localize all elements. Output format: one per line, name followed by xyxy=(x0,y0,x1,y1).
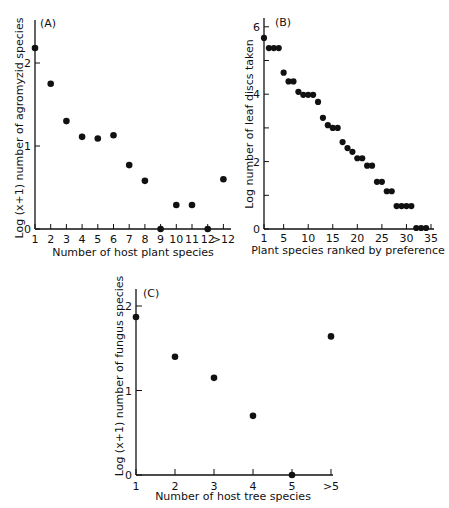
data-point xyxy=(261,35,267,41)
y-tick-label: 1 xyxy=(125,385,132,398)
data-point xyxy=(173,202,180,209)
data-point xyxy=(126,162,133,169)
data-point xyxy=(79,134,86,141)
panel-label-a: (A) xyxy=(40,17,56,30)
data-point xyxy=(290,78,296,84)
data-point xyxy=(289,472,296,479)
x-tick-label: 1 xyxy=(32,233,39,246)
data-point xyxy=(315,99,321,105)
x-tick-label: 2 xyxy=(47,233,54,246)
panel-label-b: (B) xyxy=(275,16,291,29)
x-tick-label: 4 xyxy=(79,233,86,246)
data-point xyxy=(369,163,375,169)
data-point xyxy=(47,80,54,87)
data-point xyxy=(63,118,70,125)
y-axis-label-a: Log (x+1) number of agromyzid species xyxy=(13,17,26,238)
data-point xyxy=(339,139,345,145)
chart-c: (C) 012 12345>5 Log (x+1) number of fung… xyxy=(113,275,339,503)
x-tick-label: >5 xyxy=(323,480,339,493)
data-point xyxy=(133,314,140,321)
data-point xyxy=(172,353,179,360)
data-point xyxy=(359,155,365,161)
x-tick-label: 1 xyxy=(133,480,140,493)
x-axis-label-a: Number of host plant species xyxy=(52,246,214,259)
x-tick-label: 5 xyxy=(94,233,101,246)
data-point xyxy=(250,413,257,420)
data-point xyxy=(408,203,414,209)
data-point xyxy=(310,92,316,98)
x-tick-label: 11 xyxy=(185,233,199,246)
x-axis-label-c: Number of host tree species xyxy=(155,490,311,503)
data-point xyxy=(335,125,341,131)
x-axis-label-b: Plant species ranked by preference xyxy=(251,244,445,257)
data-point xyxy=(189,202,196,209)
chart-a: (A) 012 123456789101112>12 Log (x+1) num… xyxy=(13,17,235,259)
x-tick-label: 8 xyxy=(141,233,148,246)
y-axis-label-c: Log (x+1) number of fungus species xyxy=(113,275,126,476)
x-tick-label: 7 xyxy=(126,233,133,246)
data-point xyxy=(32,45,39,52)
y-tick-label: 2 xyxy=(125,300,132,313)
data-point xyxy=(276,45,282,51)
data-point xyxy=(344,145,350,151)
y-tick-label: 0 xyxy=(125,469,132,482)
data-point xyxy=(157,226,164,233)
y-tick-label: 6 xyxy=(253,21,260,34)
data-point xyxy=(95,135,102,142)
data-point xyxy=(320,115,326,121)
y-tick-label: 0 xyxy=(253,223,260,236)
x-tick-label: 3 xyxy=(63,233,70,246)
data-point xyxy=(423,225,429,231)
data-point xyxy=(142,178,149,185)
chart-b: (B) 0246 15101520253035 Log number of le… xyxy=(243,16,445,257)
data-point xyxy=(328,333,335,340)
y-axis-label-b: Log number of leaf discs taken xyxy=(243,39,256,208)
data-point xyxy=(379,179,385,185)
data-point xyxy=(110,132,117,139)
data-point xyxy=(389,188,395,194)
panel-label-c: (C) xyxy=(143,287,159,300)
x-tick-label: 6 xyxy=(110,233,117,246)
x-tick-label: 9 xyxy=(157,233,164,246)
data-point xyxy=(204,226,211,233)
figure: (A) 012 123456789101112>12 Log (x+1) num… xyxy=(0,0,449,508)
x-tick-label: 10 xyxy=(169,233,183,246)
data-point xyxy=(281,70,287,76)
data-point xyxy=(211,375,218,382)
data-point xyxy=(349,149,355,155)
x-tick-label: >12 xyxy=(212,233,235,246)
data-point xyxy=(220,176,227,183)
